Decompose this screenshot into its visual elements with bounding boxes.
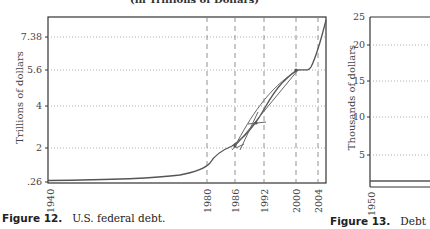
x-tick-label: 1992: [259, 189, 270, 213]
y-tick-label: 25: [335, 11, 365, 22]
y-tick-label: 20: [335, 39, 365, 50]
y-tick-label: 5: [335, 149, 365, 160]
y-tick-label: 10: [335, 111, 365, 122]
x-tick-label: 1980: [202, 189, 213, 213]
x-tick-label: 1986: [230, 189, 241, 213]
figure-caption-text: U.S. federal debt.: [72, 212, 165, 224]
y-axis-label: Trillions of dollars: [14, 48, 25, 148]
y-tick-label: 4: [12, 100, 42, 111]
figure-caption-text: Debt: [400, 215, 426, 227]
x-tick-label: 1950: [366, 192, 377, 216]
y-tick-label: 7.38: [12, 31, 42, 42]
figure-number: Figure 13.: [330, 215, 390, 227]
x-tick-label: 1940: [45, 189, 56, 213]
figure-caption: Figure 13.Debt: [330, 215, 426, 227]
y-tick-label: 2: [12, 142, 42, 153]
figure-caption: Figure 12.U.S. federal debt.: [2, 212, 165, 224]
x-tick-label: 2004: [313, 189, 324, 213]
figure-number: Figure 12.: [2, 212, 62, 224]
y-tick-label: 5.6: [12, 64, 42, 75]
x-tick-label: 2000: [291, 189, 302, 213]
y-tick-label: .26: [12, 176, 42, 187]
y-axis-label-fig13: Thousands of dollars: [346, 38, 357, 158]
y-tick-label: 15: [335, 75, 365, 86]
